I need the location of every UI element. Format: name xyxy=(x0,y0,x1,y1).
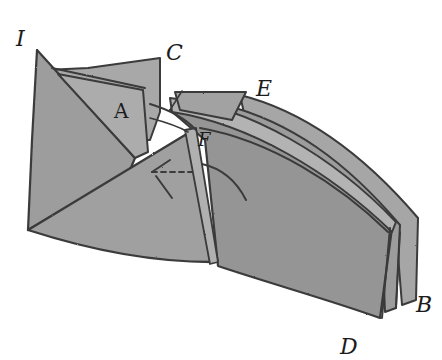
label-f: F xyxy=(197,129,212,150)
folded-paper-diagram: I C A E F D B xyxy=(0,0,442,360)
label-e: E xyxy=(255,76,272,101)
label-a: A xyxy=(113,99,129,123)
label-b: B xyxy=(415,292,432,317)
label-d: D xyxy=(339,334,358,359)
label-c: C xyxy=(166,40,183,65)
label-i: I xyxy=(15,26,26,51)
